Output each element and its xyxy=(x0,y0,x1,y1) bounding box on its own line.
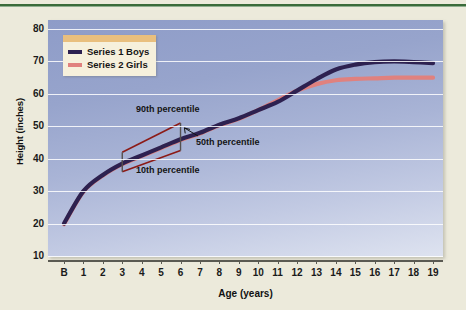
x-axis-tick-label: 17 xyxy=(384,267,404,278)
gridline xyxy=(48,256,443,257)
gridline xyxy=(48,29,443,30)
x-axis-tick-label: 3 xyxy=(112,267,132,278)
x-axis-tick xyxy=(258,260,259,264)
annotation-label: 10th percentile xyxy=(136,165,200,175)
x-axis-tick-label: 5 xyxy=(151,267,171,278)
x-axis-tick-label: 16 xyxy=(365,267,385,278)
x-axis-tick xyxy=(433,260,434,264)
gridline xyxy=(48,126,443,127)
x-axis-tick xyxy=(297,260,298,264)
x-axis-tick-label: 19 xyxy=(423,267,443,278)
annotation-label: 50th percentile xyxy=(196,137,260,147)
annotation-label: 90th percentile xyxy=(136,104,200,114)
x-axis-tick-label: 9 xyxy=(229,267,249,278)
chart-legend: Series 1 BoysSeries 2 Girls xyxy=(63,35,156,76)
x-axis-tick-label: 4 xyxy=(132,267,152,278)
x-axis-tick xyxy=(122,260,123,264)
x-axis-title: Age (years) xyxy=(48,288,443,299)
x-axis-tick xyxy=(142,260,143,264)
x-axis-tick-label: 18 xyxy=(404,267,424,278)
x-axis-tick-label: 12 xyxy=(287,267,307,278)
x-axis-tick-label: 15 xyxy=(345,267,365,278)
x-axis-tick xyxy=(161,260,162,264)
x-axis-tick-label: 13 xyxy=(306,267,326,278)
legend-item: Series 1 Boys xyxy=(68,45,151,58)
legend-swatch xyxy=(68,63,82,67)
x-axis-tick xyxy=(375,260,376,264)
series-line-girls xyxy=(64,78,433,225)
y-axis-tick-label: 20 xyxy=(18,219,44,229)
x-axis-tick-label: 11 xyxy=(268,267,288,278)
y-axis-tick-label: 10 xyxy=(18,251,44,261)
x-axis-tick-label: 2 xyxy=(93,267,113,278)
y-axis-tick-label: 30 xyxy=(18,186,44,196)
legend-label: Series 2 Girls xyxy=(87,59,148,70)
x-axis-tick-label: 10 xyxy=(248,267,268,278)
y-axis-tick-labels: 8070605040302010 xyxy=(12,20,44,257)
x-axis-tick-label: 14 xyxy=(326,267,346,278)
growth-chart-figure: Height (inches) 8070605040302010 Series … xyxy=(0,8,466,310)
legend-header-bar xyxy=(63,35,156,42)
gridline xyxy=(48,191,443,192)
x-axis-tick xyxy=(278,260,279,264)
x-axis-tick xyxy=(219,260,220,264)
x-axis-tick xyxy=(394,260,395,264)
x-axis-tick xyxy=(83,260,84,264)
x-axis-tick xyxy=(355,260,356,264)
y-axis-tick-label: 40 xyxy=(18,154,44,164)
y-axis-tick-label: 50 xyxy=(18,121,44,131)
y-axis-tick-label: 60 xyxy=(18,89,44,99)
x-axis-tick xyxy=(181,260,182,264)
x-axis-tick xyxy=(239,260,240,264)
legend-item: Series 2 Girls xyxy=(68,58,151,71)
x-axis-tick-label: 6 xyxy=(171,267,191,278)
x-axis-tick xyxy=(336,260,337,264)
y-axis-tick-label: 70 xyxy=(18,56,44,66)
top-divider-rule xyxy=(0,4,466,6)
gridline xyxy=(48,159,443,160)
x-axis-tick xyxy=(64,260,65,264)
legend-label: Series 1 Boys xyxy=(87,46,149,57)
x-axis-tick xyxy=(316,260,317,264)
x-axis-tick-label: 1 xyxy=(73,267,93,278)
x-axis-tick-label: B xyxy=(54,267,74,278)
legend-items: Series 1 BoysSeries 2 Girls xyxy=(63,42,156,76)
x-axis-line xyxy=(48,260,443,262)
gridline xyxy=(48,224,443,225)
gridline xyxy=(48,94,443,95)
x-axis-tick xyxy=(103,260,104,264)
x-axis-tick xyxy=(414,260,415,264)
y-axis-tick-label: 80 xyxy=(18,24,44,34)
x-axis-tick-label: 7 xyxy=(190,267,210,278)
percentile-reference-line xyxy=(122,123,180,152)
x-axis-tick-label: 8 xyxy=(209,267,229,278)
legend-swatch xyxy=(68,50,82,54)
x-axis-tick xyxy=(200,260,201,264)
